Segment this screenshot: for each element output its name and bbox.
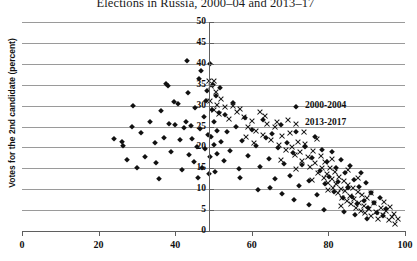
data-point-diamond [296,183,302,189]
data-point-cross [355,175,362,182]
data-point-diamond [186,152,192,158]
legend-cross-icon [293,121,300,128]
data-point-cross [260,131,267,138]
data-point-diamond [245,153,251,159]
data-point-cross [324,187,331,194]
data-point-cross [268,136,275,143]
data-point-cross [237,105,244,112]
y-axis-tick [209,210,214,211]
data-point-diamond [272,176,278,182]
data-point-cross [292,166,299,173]
data-point-diamond [287,173,293,179]
data-point-cross [297,148,304,155]
x-axis-tick [405,231,406,236]
data-point-cross [304,154,311,161]
data-point-cross [222,104,229,111]
data-point-diamond [168,148,174,154]
x-axis-tick [22,231,23,236]
data-point-cross [386,203,393,210]
data-point-cross [287,130,294,137]
x-axis-tick-label: 100 [390,240,417,250]
x-axis-tick [252,231,253,236]
data-point-diamond [328,149,334,155]
data-point-cross [285,116,292,123]
data-point-diamond [291,197,297,203]
data-point-diamond [157,107,163,113]
y-axis-label: Votes for the 2nd candidate (percent) [7,15,17,211]
data-point-cross [248,117,255,124]
y-axis-tick-label: 15 [180,163,206,172]
data-point-diamond [124,157,130,163]
y-axis-tick [209,43,214,44]
y-axis-tick-label: 10 [180,184,206,193]
x-axis-tick [328,231,329,236]
data-point-diamond [338,157,344,163]
data-point-cross [210,106,217,113]
data-point-diamond [111,136,117,142]
y-axis-tick [209,22,214,23]
y-axis-tick-label: 0 [180,226,206,235]
data-point-cross [241,114,248,121]
y-axis-tick-label: 45 [180,38,206,47]
data-point-diamond [236,166,242,172]
x-axis-tick [175,231,176,236]
y-axis-tick [209,127,214,128]
y-axis-tick-label: 5 [180,205,206,214]
legend-label: 2000-2004 [305,100,346,111]
data-point-diamond [153,160,159,166]
y-axis-tick-label: 50 [180,17,206,26]
data-point-diamond [363,180,369,186]
data-point-cross [310,147,317,154]
y-axis-tick [209,85,214,86]
data-point-diamond [226,148,232,154]
data-point-cross [273,119,280,126]
data-point-diamond [255,187,261,193]
data-point-diamond [195,174,201,180]
y-axis-tick-label: 25 [180,122,206,131]
y-axis-tick-label: 20 [180,142,206,151]
data-point-cross [390,211,397,218]
data-point-diamond [279,191,285,197]
x-axis-tick [99,231,100,236]
data-point-diamond [293,129,299,135]
x-axis-tick-label: 80 [313,240,343,250]
data-point-cross [275,141,282,148]
data-point-diamond [213,128,219,134]
data-point-diamond [212,168,218,174]
data-point-diamond [130,102,136,108]
data-point-cross [218,95,225,102]
data-point-diamond [210,118,216,124]
data-point-diamond [223,128,229,134]
data-point-cross [313,136,320,143]
data-point-diamond [237,175,243,181]
data-point-diamond [306,202,312,208]
data-point-cross [243,134,250,141]
legend-label: 2013-2017 [305,117,346,128]
data-point-diamond [200,113,206,119]
data-point-cross [264,121,271,128]
data-point-cross [252,127,259,134]
data-point-cross [250,140,257,147]
data-point-cross [294,139,301,146]
y-axis-tick [209,189,214,190]
y-axis-tick [209,168,214,169]
data-point-diamond [321,207,327,213]
data-point-cross [338,202,345,209]
y-axis-tick-label: 35 [180,80,206,89]
data-point-diamond [152,140,158,146]
y-axis-tick [209,64,214,65]
data-point-diamond [156,176,162,182]
data-point-diamond [141,154,147,160]
x-axis-tick-label: 40 [160,240,190,250]
data-point-cross [262,112,269,119]
data-point-diamond [314,192,320,198]
x-axis-tick-label: 0 [7,240,37,250]
data-point-cross [277,156,284,163]
data-point-diamond [214,151,220,157]
data-point-diamond [147,119,153,125]
x-axis-tick-label: 20 [84,240,114,250]
data-point-diamond [198,68,204,74]
y-axis-tick [209,231,214,232]
y-axis-tick-label: 40 [180,59,206,68]
